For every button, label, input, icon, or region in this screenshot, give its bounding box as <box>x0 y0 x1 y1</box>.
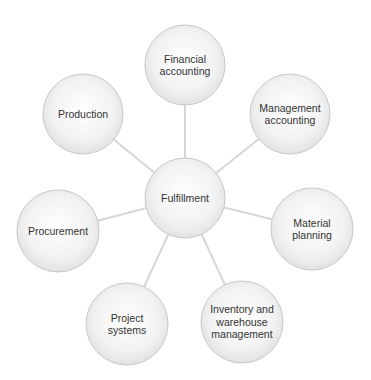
node-label-procurement: Procurement <box>17 190 99 272</box>
connector-procurement <box>98 208 147 221</box>
connector-material-planning <box>224 207 272 219</box>
node-label-project-systems: Project systems <box>86 283 168 365</box>
node-label-financial-accounting: Financial accounting <box>145 25 225 105</box>
node-label-inventory-warehouse-management: Inventory and warehouse management <box>201 281 283 363</box>
node-label-production: Production <box>43 74 123 154</box>
hub-node-label: Fulfillment <box>145 158 225 238</box>
connector-inventory-warehouse-management <box>202 234 225 284</box>
node-label-material-planning: Material planning <box>271 188 353 270</box>
node-label-management-accounting: Management accounting <box>250 74 330 154</box>
connector-project-systems <box>144 234 168 286</box>
